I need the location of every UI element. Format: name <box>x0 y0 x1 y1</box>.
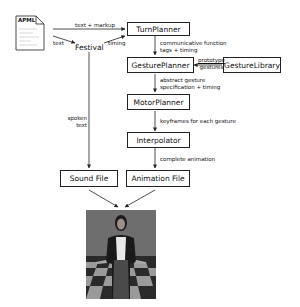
edge-label-text: text <box>53 40 64 47</box>
interpolator-label: Interpolator <box>136 136 180 145</box>
motor-planner-label: MotorPlanner <box>133 98 183 107</box>
node-animation-file: Animation File <box>126 170 190 187</box>
edge-label-keyframes: keyframes for each gesture <box>160 118 236 125</box>
node-turn-planner: TurnPlanner <box>127 22 190 36</box>
edge-label-line1: prototype <box>198 57 225 64</box>
edge-label-complete-animation: complete animation <box>160 156 215 163</box>
edge-label-line2: text <box>63 122 87 129</box>
edge-label-line2: gestures <box>198 64 225 71</box>
gesture-library-label: GestureLibrary <box>224 61 280 70</box>
edge-label-abstract-gesture: abstract gesture specification + timing <box>160 77 220 91</box>
gesture-planner-label: GesturePlanner <box>132 61 190 70</box>
avatar-render-image <box>86 210 156 299</box>
node-motor-planner: MotorPlanner <box>127 94 190 110</box>
edge-label-line1: communicative function <box>160 40 227 47</box>
animation-file-label: Animation File <box>131 174 184 183</box>
edge-label-spoken-text: spoken text <box>63 115 87 129</box>
turn-planner-label: TurnPlanner <box>136 25 180 34</box>
edge-label-timing: timing <box>108 40 126 47</box>
node-sound-file: Sound File <box>60 170 118 187</box>
avatar-scene-graphic <box>86 210 156 299</box>
edge-label-line2: specification + timing <box>160 84 220 91</box>
sound-file-label: Sound File <box>70 174 109 183</box>
node-interpolator: Interpolator <box>127 132 190 148</box>
edge-label-comm-func: communicative function tags + timing <box>160 40 227 54</box>
apml-label: APML <box>18 17 35 23</box>
edge-label-prototype-gestures: prototype gestures <box>198 57 225 71</box>
node-gesture-planner: GesturePlanner <box>127 57 194 73</box>
edge-label-text-markup: text + markup <box>75 22 115 29</box>
edge-label-line2: tags + timing <box>160 47 227 54</box>
edge-label-line1: abstract gesture <box>160 77 220 84</box>
edge-label-line1: spoken <box>63 115 87 122</box>
apml-document-icon: APML <box>15 15 45 51</box>
node-gesture-library: GestureLibrary <box>223 57 281 73</box>
node-festival: Festival <box>75 43 104 52</box>
